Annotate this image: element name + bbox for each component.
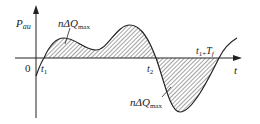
- top-area-label: nΔQmax: [58, 17, 90, 31]
- power-deviation-diagram: Pau nΔQmax 0 t1 t2 t1+Tf t nΔQmax: [0, 0, 260, 124]
- y-axis-arrow-icon: [33, 5, 39, 14]
- t2-label: t2: [147, 63, 154, 76]
- t1-label: t1: [41, 63, 48, 76]
- origin-label: 0: [25, 62, 31, 74]
- y-axis-label: Pau: [15, 17, 31, 31]
- negative-area-hatch: [156, 58, 219, 112]
- bottom-area-label: nΔQmax: [130, 96, 162, 110]
- x-axis-arrow-icon: [233, 55, 242, 61]
- t1-plus-tf-label: t1+Tf: [196, 45, 215, 58]
- x-axis-label: t: [234, 64, 238, 76]
- positive-area-hatch: [44, 25, 156, 58]
